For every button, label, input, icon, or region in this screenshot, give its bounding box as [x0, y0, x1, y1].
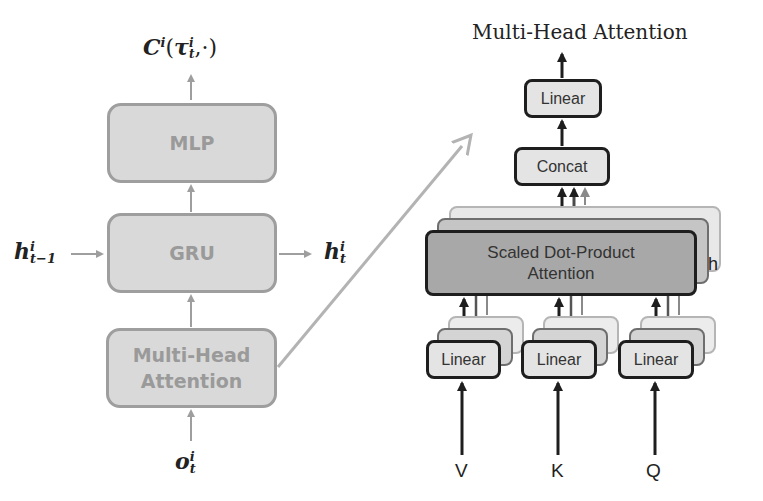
- linear-v-box: Linear: [426, 340, 501, 379]
- figure: Ci(τit,·) MLP GRU Multi-Head Attention h…: [0, 0, 763, 501]
- concat-label: Concat: [537, 158, 588, 176]
- input-v-label: V: [455, 460, 468, 482]
- hidden-out-base: h: [324, 238, 340, 264]
- output-linear-box: Linear: [524, 79, 602, 118]
- hidden-in-label: hit−1: [14, 238, 56, 265]
- input-k-label: K: [551, 460, 564, 482]
- sdpa-box: Scaled Dot-Product Attention: [425, 230, 697, 296]
- hidden-in-sub: t−1: [30, 253, 56, 265]
- sdpa-label-line1: Scaled Dot-Product: [487, 242, 634, 263]
- observation-base: o: [175, 448, 190, 474]
- mha-label-line1: Multi-Head: [133, 342, 251, 368]
- linear-v-label: Linear: [441, 351, 485, 369]
- mha-label-line2: Attention: [141, 368, 242, 394]
- output-label-rest: ,·): [194, 35, 217, 60]
- linear-q-box: Linear: [618, 340, 694, 379]
- observation-sub: t: [190, 463, 196, 475]
- observation-label: oit: [175, 448, 196, 475]
- sdpa-label-line2: Attention: [527, 263, 594, 284]
- heads-label: h: [708, 254, 718, 275]
- output-label: Ci(τit,·): [143, 34, 217, 60]
- hidden-in-base: h: [14, 238, 30, 264]
- mha-title: Multi-Head Attention: [472, 20, 688, 44]
- output-label-tau: τ: [174, 34, 189, 60]
- linear-k-label: Linear: [537, 351, 581, 369]
- mlp-label: MLP: [170, 130, 215, 156]
- gru-label: GRU: [169, 240, 215, 266]
- concat-box: Concat: [514, 147, 610, 186]
- mlp-box: MLP: [107, 103, 277, 183]
- output-label-paren: (: [165, 35, 174, 60]
- hidden-out-sub: t: [340, 253, 346, 265]
- linear-k-box: Linear: [521, 340, 597, 379]
- gru-box: GRU: [107, 213, 277, 293]
- hidden-out-label: hit: [324, 238, 346, 265]
- multi-head-attention-box: Multi-Head Attention: [106, 328, 277, 408]
- linear-q-label: Linear: [634, 351, 678, 369]
- output-linear-label: Linear: [541, 90, 585, 108]
- output-label-base: C: [143, 34, 161, 60]
- input-q-label: Q: [646, 460, 661, 482]
